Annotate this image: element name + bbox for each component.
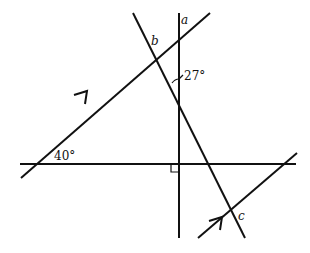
angle-arc-27: [172, 79, 179, 83]
right-angle-marker: [171, 164, 179, 172]
parallel-line-upper: [21, 13, 210, 178]
label-b: b: [151, 34, 159, 48]
angle-label-40: 40°: [54, 149, 75, 163]
geometry-diagram: a b c 27° 40°: [0, 0, 310, 253]
angle-label-27: 27°: [184, 69, 205, 83]
label-c: c: [238, 209, 245, 223]
parallel-arrow-icon: [74, 91, 87, 104]
parallel-line-lower: [198, 153, 297, 238]
transversal-line: [133, 13, 245, 238]
label-a: a: [181, 13, 188, 27]
